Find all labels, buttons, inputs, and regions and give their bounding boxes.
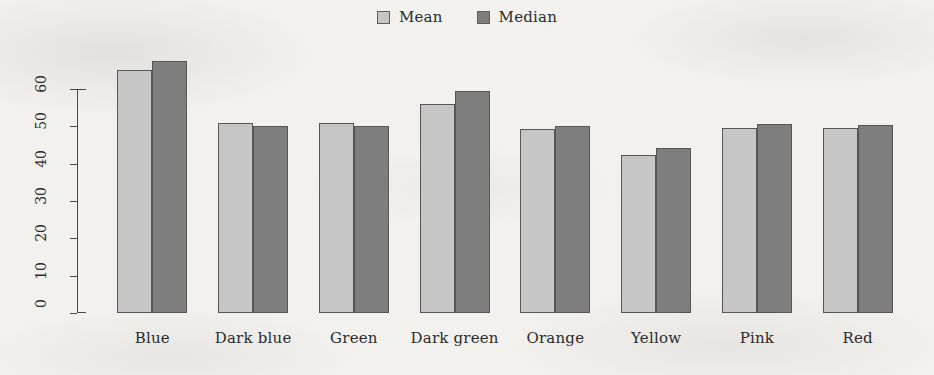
bar-median bbox=[354, 126, 389, 313]
y-axis-cap-top bbox=[77, 89, 86, 90]
square-swatch-icon bbox=[477, 11, 490, 24]
x-axis-category-label: Green bbox=[304, 329, 405, 347]
bar-group: Pink bbox=[707, 89, 808, 313]
bar-mean bbox=[117, 70, 152, 313]
bar-mean bbox=[722, 128, 757, 313]
bar-median bbox=[455, 91, 490, 313]
bar-mean bbox=[621, 155, 656, 313]
y-axis-tick bbox=[70, 276, 77, 277]
bar-mean bbox=[319, 123, 354, 313]
bar-mean bbox=[823, 128, 858, 313]
bar-group: Blue bbox=[102, 89, 203, 313]
bar-median bbox=[858, 125, 893, 313]
x-axis-category-label: Yellow bbox=[606, 329, 707, 347]
x-axis-category-label: Blue bbox=[102, 329, 203, 347]
x-axis-category-label: Dark green bbox=[404, 329, 505, 347]
bar-group: Red bbox=[807, 89, 908, 313]
y-axis-tick-label: 10 bbox=[34, 262, 68, 280]
x-axis-category-label: Dark blue bbox=[203, 329, 304, 347]
y-axis-tick bbox=[70, 238, 77, 239]
legend-entry: Median bbox=[477, 8, 557, 26]
bar-group: Dark blue bbox=[203, 89, 304, 313]
y-axis-tick bbox=[70, 313, 77, 314]
bar-median bbox=[152, 61, 187, 313]
legend-label: Mean bbox=[399, 8, 443, 26]
y-axis-tick-label: 50 bbox=[34, 112, 68, 130]
y-axis-tick bbox=[70, 201, 77, 202]
chart-legend: MeanMedian bbox=[0, 8, 934, 26]
x-axis-category-label: Red bbox=[807, 329, 908, 347]
y-axis-tick bbox=[70, 164, 77, 165]
y-axis-tick-label: 60 bbox=[34, 75, 68, 93]
y-axis-tick-label: 20 bbox=[34, 224, 68, 242]
bar-group: Yellow bbox=[606, 89, 707, 313]
y-axis-line bbox=[77, 89, 78, 313]
x-axis-category-label: Orange bbox=[505, 329, 606, 347]
y-axis-tick bbox=[70, 89, 77, 90]
y-axis-tick-label: 0 bbox=[34, 299, 68, 308]
bar-group: Dark green bbox=[404, 89, 505, 313]
bar-median bbox=[757, 124, 792, 313]
y-axis-cap-bottom bbox=[77, 312, 86, 313]
bar-mean bbox=[520, 129, 555, 313]
bar-median bbox=[555, 126, 590, 313]
bar-group: Orange bbox=[505, 89, 606, 313]
y-axis-tick bbox=[70, 126, 77, 127]
y-axis-tick-label: 40 bbox=[34, 150, 68, 168]
plot-area: 0102030405060 BlueDark blueGreenDark gre… bbox=[86, 89, 908, 313]
legend-label: Median bbox=[499, 8, 557, 26]
bar-median bbox=[656, 148, 691, 313]
y-axis-tick-label: 30 bbox=[34, 187, 68, 205]
bar-group: Green bbox=[304, 89, 405, 313]
bar-chart-figure: MeanMedian 0102030405060 BlueDark blueGr… bbox=[0, 0, 934, 375]
bar-mean bbox=[218, 123, 253, 313]
bar-median bbox=[253, 126, 288, 313]
square-swatch-icon bbox=[377, 11, 390, 24]
legend-entry: Mean bbox=[377, 8, 443, 26]
bar-groups: BlueDark blueGreenDark greenOrangeYellow… bbox=[102, 89, 908, 313]
bar-mean bbox=[420, 104, 455, 313]
x-axis-category-label: Pink bbox=[707, 329, 808, 347]
